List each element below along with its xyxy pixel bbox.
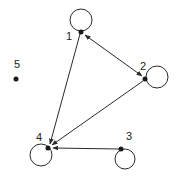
graph-diagram: 1 2 3 4 5 [0,0,186,178]
self-loop-2 [146,66,168,88]
node-dot-4 [46,146,51,151]
node-label-2: 2 [140,60,146,72]
node-3: 3 [115,130,135,169]
node-label-1: 1 [66,30,72,42]
node-dot-1 [79,30,84,35]
node-dot-3 [119,147,124,152]
self-loop-1 [70,9,92,31]
edge-1-4 [50,34,80,144]
node-5: 5 [14,58,21,82]
node-label-5: 5 [14,58,20,70]
node-dot-5 [14,77,19,82]
edge-3-4 [53,148,119,149]
edge-1-2 [85,35,142,76]
node-2: 2 [140,60,168,88]
node-dot-2 [143,77,148,82]
node-label-3: 3 [126,130,132,142]
self-loop-3 [115,149,135,169]
node-label-4: 4 [36,131,42,143]
node-4: 4 [30,131,52,166]
